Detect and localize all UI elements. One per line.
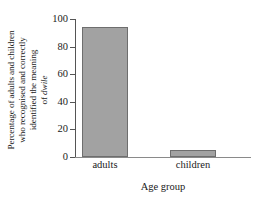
- y-tick-label: 20: [58, 124, 69, 135]
- bar-children[interactable]: [170, 150, 216, 157]
- y-axis-tick-labels: 020406080100: [46, 0, 68, 204]
- x-axis-line: [75, 157, 251, 158]
- bar-chart: Percentage of adults and children who re…: [0, 0, 254, 204]
- y-tick-label: 60: [58, 69, 69, 80]
- x-category-label: adults: [92, 160, 117, 171]
- y-tick-label: 100: [52, 14, 68, 25]
- plot-area: [75, 19, 251, 157]
- y-tick-label: 80: [58, 41, 69, 52]
- x-axis-title: Age group: [75, 182, 251, 193]
- y-axis-title-line-2: who recognised and correctly: [17, 37, 28, 143]
- x-axis-category-labels: adultschildren: [75, 160, 251, 176]
- y-tick-label: 40: [58, 97, 69, 108]
- y-axis-title-line-3: identified the meaning: [28, 50, 39, 130]
- y-axis-title-line-1: Percentage of adults and children: [6, 30, 17, 149]
- bar-adults[interactable]: [82, 27, 128, 157]
- x-category-label: children: [176, 160, 210, 171]
- y-tick-label: 0: [63, 152, 68, 163]
